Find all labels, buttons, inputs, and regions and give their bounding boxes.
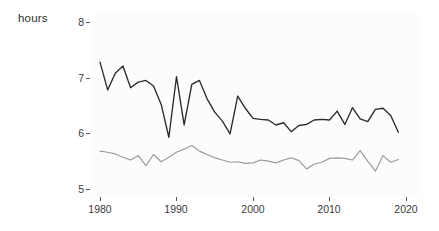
series-line-lower	[100, 146, 398, 172]
chart-figure: hours 8 7 6 5 1980 1990 2000 2010 2020	[0, 0, 439, 231]
series-line-upper	[100, 62, 398, 137]
plot-lines	[0, 0, 439, 231]
